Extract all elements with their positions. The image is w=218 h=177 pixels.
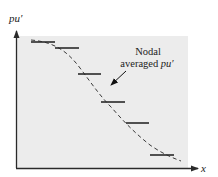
annotation-variable: pu′ — [160, 58, 175, 69]
annotation-line-1: Nodal — [135, 46, 161, 57]
x-axis-label: x — [200, 162, 206, 174]
nodal-averaged-diagram: pu′ x Nodal averaged pu′ — [0, 0, 218, 177]
annotation-text: averaged — [120, 58, 161, 69]
annotation-line-2: averaged pu′ — [120, 58, 174, 69]
y-axis-label: pu′ — [8, 12, 23, 24]
